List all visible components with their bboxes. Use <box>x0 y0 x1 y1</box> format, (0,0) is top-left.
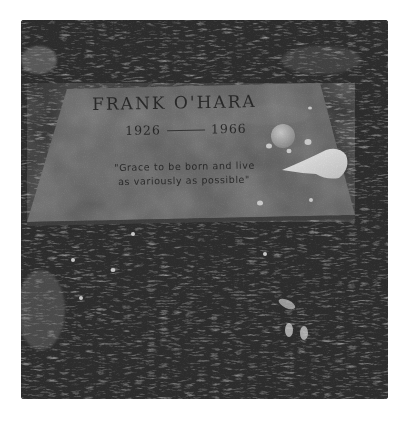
gravestone-name: FRANK O'HARA <box>92 91 257 114</box>
epitaph-line-2: as variously as possible" <box>118 174 250 187</box>
dates-dash <box>167 130 205 132</box>
death-year: 1966 <box>211 121 247 137</box>
gravestone-dates: 19261966 <box>125 121 247 138</box>
birth-year: 1926 <box>125 122 161 138</box>
grave-photo <box>21 20 388 399</box>
photo-canvas <box>21 20 388 399</box>
